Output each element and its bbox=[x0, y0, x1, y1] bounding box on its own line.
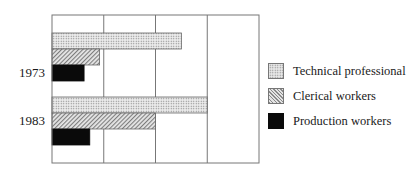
bar-1983-technical-professional bbox=[52, 97, 207, 113]
legend-label: Clerical workers bbox=[293, 89, 376, 104]
chart-bars bbox=[52, 33, 207, 145]
legend-item-production-workers: Production workers bbox=[268, 112, 391, 130]
legend-label: Production workers bbox=[293, 114, 391, 129]
solid-swatch-icon bbox=[268, 113, 284, 129]
bar-1973-clerical-workers bbox=[52, 49, 100, 65]
category-label-1983: 1983 bbox=[19, 114, 45, 128]
dotted-swatch-icon bbox=[268, 63, 284, 79]
bar-1973-technical-professional bbox=[52, 33, 181, 49]
bar-1983-clerical-workers bbox=[52, 113, 156, 129]
category-label-1973: 1973 bbox=[19, 66, 45, 80]
legend-label: Technical professional bbox=[293, 64, 406, 79]
bar-1983-production-workers bbox=[52, 129, 90, 145]
legend-item-clerical-workers: Clerical workers bbox=[268, 87, 376, 105]
hatched-swatch-icon bbox=[268, 88, 284, 104]
legend-item-technical-professional: Technical professional bbox=[268, 62, 406, 80]
bar-1973-production-workers bbox=[52, 65, 84, 81]
